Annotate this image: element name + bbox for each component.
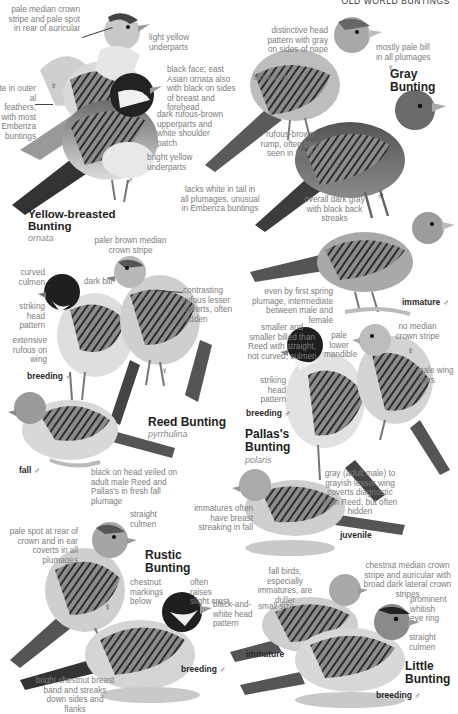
little-note-fall-duller: fall birds, especially immatures, are du…	[250, 567, 320, 605]
pallas-breeding-sex: ♂	[284, 408, 290, 418]
pallas-note-wing-bars: pale wing bars	[419, 366, 454, 385]
rustic-note-straight-culmen: straight culmen	[130, 510, 170, 529]
gray-note-rump: rufous-brown rump, often best seen in fl…	[255, 130, 325, 159]
rustic-breeding-label: breeding ♂	[181, 664, 226, 674]
pallas-note-lesser-coverts: gray (adult male) to grayish lesser wing…	[320, 469, 400, 517]
yb-title-line2: Bunting	[28, 220, 71, 233]
gray-note-size: large size	[253, 73, 303, 83]
rustic-breeding-sex: ♂	[219, 664, 225, 674]
pallas-breeding-label: breeding ♂	[246, 408, 291, 418]
leader-line	[35, 104, 53, 105]
pallas-note-striking-head: striking head pattern	[248, 376, 286, 405]
little-breeding-label: breeding ♂	[376, 690, 421, 700]
little-note-straight-culmen: straight culmen	[409, 633, 444, 652]
rustic-note-chestnut-band: bright chestnut breast band and streaks …	[35, 676, 115, 714]
little-note-chestnut-crown: chestnut median crown stripe and auricul…	[360, 561, 455, 599]
pallas-note-immature-streaking: immatures often have breast streaking in…	[178, 504, 253, 533]
pallas-title-line2: Bunting	[245, 441, 290, 454]
reed-note-fall-veiled: black on head veiled on adult male Reed …	[91, 468, 186, 506]
reed-fall-text: fall	[19, 465, 31, 475]
reed-breeding-sex: ♂	[65, 371, 71, 381]
gray-immature-label: immature ♂	[402, 297, 449, 307]
gray-immature-sex: ♂	[443, 297, 449, 307]
gray-note-tail: lacks white in tail in all plumages, unu…	[180, 185, 260, 214]
yb-note-bright-yellow: bright yellow underparts	[147, 153, 207, 172]
reed-note-curved-culmen: curved culmen	[5, 268, 45, 287]
reed-subspecies: pyrrhulina	[148, 429, 188, 439]
reed-note-striking-head: striking head pattern	[5, 302, 45, 331]
pallas-female-symbol: ♀	[407, 345, 415, 356]
rustic-breeding-text: breeding	[181, 664, 217, 674]
reed-note-paler-crown: paler brown median crown stripe	[93, 236, 168, 255]
gray-note-bill: mostly pale bill in all plumages	[376, 43, 436, 62]
reed-breeding-text: breeding	[27, 371, 63, 381]
little-breeding-text: breeding	[376, 690, 412, 700]
pallas-note-lower-mandible: pale lower mandible	[324, 331, 354, 360]
pallas-note-smaller: smaller and smaller billed than Reed wit…	[247, 323, 317, 361]
pallas-note-no-median: no median crown stripe	[390, 322, 445, 341]
yb-subspecies: ornata	[28, 233, 54, 243]
gray-note-head: distinctive head pattern with gray on si…	[258, 26, 328, 55]
gray-immature-text: immature	[402, 297, 440, 307]
yb-note-tail: te in outer al feathers, with most Ember…	[0, 84, 36, 142]
yb-note-light-yellow: light yellow underparts	[149, 33, 209, 52]
reed-fall-sex: ♂	[34, 465, 40, 475]
yb-note-black-face: black face; east Asian ornata also with …	[167, 65, 242, 113]
pallas-breeding-text: breeding	[246, 408, 282, 418]
rustic-female-symbol: ♀	[104, 601, 112, 612]
pallas-subspecies: polaris	[245, 455, 272, 465]
reed-note-dark-bill: dark bill	[84, 277, 124, 287]
little-note-small-size: small size	[258, 602, 303, 612]
rustic-note-pale-spot: pale spot at rear of crown and in ear co…	[0, 527, 78, 565]
yb-note-rufous: dark rufous-brown upperparts and white s…	[157, 110, 232, 148]
reed-note-rufous-coverts: contrasting rufous lesser coverts, often…	[183, 286, 243, 324]
little-breeding-sex: ♂	[414, 690, 420, 700]
gray-male-symbol: ♂	[377, 190, 385, 201]
little-note-eye-ring: prominent whitish eye ring	[410, 595, 450, 624]
reed-note-extensive-rufous: extensive rufous on wing	[5, 336, 47, 365]
gray-title: Gray Bunting	[390, 68, 458, 94]
pallass-bunting-female-bird	[352, 324, 450, 475]
reed-breeding-label: breeding ♂	[27, 371, 72, 381]
reed-fall-label: fall ♂	[19, 465, 40, 475]
rustic-note-head-pattern: black-and-white head pattern	[213, 600, 253, 629]
little-immature-label: immature	[246, 649, 284, 659]
yb-male-symbol: ♂	[126, 175, 134, 186]
yb-note-crown: pale median crown stripe and pale spot i…	[0, 5, 80, 34]
little-title-line2: Bunting	[405, 673, 450, 686]
gray-note-first-spring: even by first spring plumage, intermedia…	[245, 287, 333, 325]
reed-female-symbol: ♀	[161, 365, 169, 376]
rustic-title-line2: Bunting	[145, 562, 190, 575]
gray-note-overall: overall dark gray with black back streak…	[297, 195, 372, 224]
reed-title: Reed Bunting	[148, 416, 226, 429]
rustic-note-chestnut-markings: chestnut markings below	[130, 578, 165, 607]
yb-female-symbol: ♀	[50, 80, 58, 91]
pallas-juvenile-label: juvenile	[340, 530, 372, 540]
